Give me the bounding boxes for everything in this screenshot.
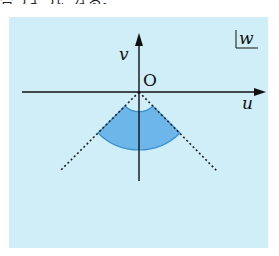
u-axis-label: u — [242, 93, 253, 113]
v-axis-label: v — [119, 44, 129, 64]
origin-label: O — [143, 70, 157, 90]
plane-label: w — [239, 28, 254, 48]
u-axis-arrow-icon — [254, 88, 266, 96]
complex-plane-diagram: v O u w — [0, 0, 279, 256]
v-axis-arrow-icon — [135, 33, 143, 46]
